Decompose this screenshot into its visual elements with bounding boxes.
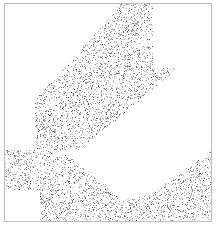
stipple-image bbox=[0, 0, 219, 227]
